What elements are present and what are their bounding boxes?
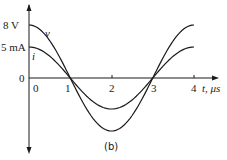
x-tick-label-4: 4 bbox=[191, 82, 197, 94]
y-label-5ma: 5 mA bbox=[1, 41, 26, 53]
x-tick-label-0: 0 bbox=[33, 82, 39, 94]
chart-canvas: 8 V 5 mA 0 v i 0 1 2 3 4 t, μs (b) bbox=[0, 0, 227, 160]
x-axis-arrow-icon bbox=[212, 76, 219, 81]
figure-caption: (b) bbox=[104, 141, 118, 152]
series-label-i: i bbox=[32, 50, 35, 62]
x-tick-label-1: 1 bbox=[65, 82, 71, 94]
series-label-v: v bbox=[45, 27, 50, 39]
x-tick-label-3: 3 bbox=[151, 82, 157, 94]
y-axis bbox=[27, 4, 32, 154]
y-axis-arrow-up-icon bbox=[27, 4, 32, 11]
y-axis-arrow-down-icon bbox=[27, 147, 32, 154]
y-label-zero: 0 bbox=[19, 72, 25, 84]
x-axis-label: t, μs bbox=[202, 82, 220, 94]
x-tick-label-2: 2 bbox=[109, 82, 115, 94]
y-label-8v: 8 V bbox=[3, 19, 19, 31]
x-axis bbox=[29, 75, 219, 81]
